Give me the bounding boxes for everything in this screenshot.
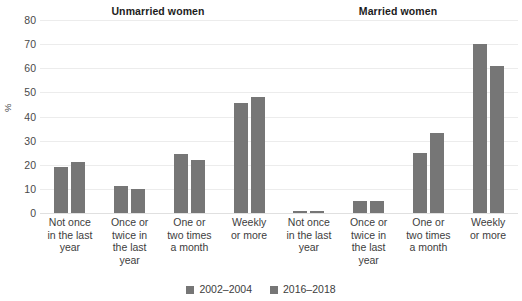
cat-label-once-or-twice: Once ortwice inthe lastyear	[339, 216, 399, 276]
bar-unmarried-weekly-2016[interactable]	[251, 97, 265, 213]
grouped-bar-chart: Unmarried women Married women % 80 70 60…	[0, 0, 522, 301]
bar-unmarried-weekly-2002[interactable]	[234, 103, 248, 213]
bar-married-monthly-2002[interactable]	[413, 153, 427, 213]
y-tick-30: 30	[24, 136, 36, 146]
panel-title-married: Married women	[278, 4, 518, 20]
bar-unmarried-once-twice-2016[interactable]	[131, 189, 145, 213]
legend-item-2002-2004[interactable]: 2002–2004	[186, 284, 252, 295]
cat-label-not-once: Not oncein the lastyear	[40, 216, 100, 276]
panel-title-row: Unmarried women Married women	[38, 4, 518, 20]
bar-married-weekly-2002[interactable]	[473, 44, 487, 213]
legend-item-2016-2018[interactable]: 2016–2018	[270, 284, 336, 295]
bar-married-not-once-2002[interactable]	[293, 211, 307, 213]
y-tick-20: 20	[24, 160, 36, 170]
bar-group-weekly-or-more	[458, 20, 518, 213]
y-tick-80: 80	[24, 15, 36, 25]
bar-group-not-once	[279, 20, 339, 213]
cat-label-once-or-twice: Once ortwice inthe lastyear	[100, 216, 160, 276]
bar-group-weekly-or-more	[219, 20, 279, 213]
y-tick-70: 70	[24, 39, 36, 49]
cat-label-one-or-two-times-month: One ortwo timesa month	[160, 216, 220, 276]
bar-unmarried-once-twice-2002[interactable]	[114, 186, 128, 213]
legend: 2002–2004 2016–2018	[0, 284, 522, 295]
panels	[40, 20, 518, 213]
cat-panel-unmarried: Not oncein the lastyear Once ortwice int…	[40, 216, 279, 276]
y-tick-10: 10	[24, 184, 36, 194]
gridline-0	[40, 213, 518, 214]
bar-group-once-or-twice	[100, 20, 160, 213]
plot-area	[40, 20, 518, 213]
bar-married-once-twice-2002[interactable]	[353, 201, 367, 213]
bar-group-one-or-two-times-month	[399, 20, 459, 213]
bar-group-once-or-twice	[339, 20, 399, 213]
panel-unmarried-women	[40, 20, 279, 213]
y-axis-ticks: 80 70 60 50 40 30 20 10 0	[10, 20, 36, 213]
x-axis-category-labels: Not oncein the lastyear Once ortwice int…	[40, 216, 518, 276]
cat-label-weekly-or-more: Weeklyor more	[458, 216, 518, 276]
bar-married-weekly-2016[interactable]	[490, 66, 504, 213]
legend-swatch-icon	[270, 286, 278, 294]
legend-label: 2016–2018	[283, 284, 336, 295]
bar-unmarried-monthly-2002[interactable]	[174, 154, 188, 213]
y-tick-60: 60	[24, 63, 36, 73]
bar-married-not-once-2016[interactable]	[310, 211, 324, 213]
y-tick-50: 50	[24, 87, 36, 97]
bar-group-one-or-two-times-month	[160, 20, 220, 213]
cat-label-weekly-or-more: Weeklyor more	[219, 216, 279, 276]
legend-swatch-icon	[186, 286, 194, 294]
panel-title-unmarried: Unmarried women	[38, 4, 278, 20]
cat-label-one-or-two-times-month: One ortwo timesa month	[399, 216, 459, 276]
cat-label-not-once: Not oncein the lastyear	[279, 216, 339, 276]
bar-unmarried-not-once-2016[interactable]	[71, 162, 85, 213]
legend-label: 2002–2004	[199, 284, 252, 295]
bar-group-not-once	[40, 20, 100, 213]
bar-unmarried-not-once-2002[interactable]	[54, 167, 68, 213]
bar-unmarried-monthly-2016[interactable]	[191, 160, 205, 213]
y-tick-40: 40	[24, 112, 36, 122]
cat-panel-married: Not oncein the lastyear Once ortwice int…	[279, 216, 518, 276]
bar-married-once-twice-2016[interactable]	[370, 201, 384, 213]
y-tick-0: 0	[30, 208, 36, 218]
panel-married-women	[279, 20, 518, 213]
bar-married-monthly-2016[interactable]	[430, 133, 444, 213]
